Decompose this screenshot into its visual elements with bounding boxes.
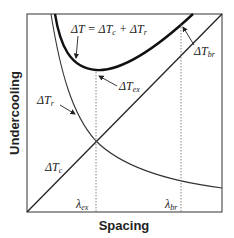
y-axis-label: Undercooling [7,71,22,155]
x-axis-label: Spacing [99,218,150,233]
arrow-ex [99,76,117,86]
label-br: ΔTbr [193,44,216,59]
label-total: ΔT = ΔTc + ΔTr [70,22,148,37]
label-r: ΔTr [36,93,55,108]
arrow-total [76,36,78,58]
label-ex: ΔTex [118,79,140,94]
label-c: ΔTc [44,160,63,175]
label-lambda-ex: λex [75,197,89,212]
label-lambda-br: λbr [164,197,178,212]
arrow-br [183,27,194,45]
arrow-r [60,105,75,114]
undercooling-diagram: ΔT = ΔTc + ΔTr ΔTex ΔTbr ΔTr ΔTc λex λbr… [0,0,234,238]
